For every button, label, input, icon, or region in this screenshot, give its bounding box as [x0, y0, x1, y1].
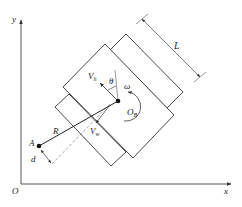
center-point-ob: [116, 99, 121, 104]
theta-label: θ: [109, 76, 114, 86]
point-a-label: A: [28, 138, 35, 148]
x-axis-label: x: [223, 186, 228, 196]
offset-d-label: d: [31, 154, 36, 164]
radius-label: R: [52, 126, 59, 136]
omega-label: ω: [124, 81, 130, 91]
robot-kinematics-diagram: y O x L Vh θ ω OB R Vw A d: [0, 0, 242, 207]
diagram-canvas: y O x L Vh θ ω OB R Vw A d: [0, 0, 242, 207]
origin-label: O: [12, 186, 19, 196]
length-label: L: [173, 40, 180, 51]
d-arrow: [41, 150, 51, 163]
y-axis-label: y: [11, 14, 16, 24]
point-a: [37, 144, 42, 149]
